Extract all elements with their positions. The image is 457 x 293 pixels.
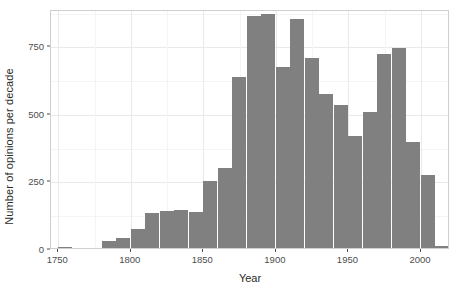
bar-1900 bbox=[276, 67, 290, 248]
bar-1840 bbox=[189, 212, 203, 248]
x-tick-mark-2000 bbox=[420, 249, 421, 252]
bar-1790 bbox=[116, 238, 130, 248]
x-tick-label-1750: 1750 bbox=[47, 254, 68, 265]
bar-1810 bbox=[145, 213, 159, 248]
bar-1820 bbox=[160, 211, 174, 248]
bar-1990 bbox=[406, 142, 420, 248]
x-tick-mark-1900 bbox=[275, 249, 276, 252]
bar-1850 bbox=[203, 181, 217, 248]
bar-2010 bbox=[435, 246, 449, 248]
x-tick-mark-1750 bbox=[57, 249, 58, 252]
y-tick-mark-500 bbox=[47, 113, 50, 114]
x-tick-mark-1800 bbox=[130, 249, 131, 252]
bar-1880 bbox=[247, 16, 261, 248]
bar-1780 bbox=[102, 241, 116, 248]
x-tick-mark-1850 bbox=[202, 249, 203, 252]
bar-1970 bbox=[377, 54, 391, 248]
x-tick-label-1800: 1800 bbox=[119, 254, 140, 265]
y-tick-mark-750 bbox=[47, 46, 50, 47]
x-tick-label-1900: 1900 bbox=[264, 254, 285, 265]
x-tick-mark-1950 bbox=[347, 249, 348, 252]
x-tick-label-1850: 1850 bbox=[192, 254, 213, 265]
bar-1940 bbox=[334, 105, 348, 248]
y-axis-title: Number of opinions per decade bbox=[0, 0, 18, 293]
y-tick-label-250: 250 bbox=[19, 176, 44, 187]
x-axis-title: Year bbox=[50, 272, 450, 284]
x-axis-tick-labels: 175018001850190019502000 bbox=[0, 254, 457, 268]
bars-layer bbox=[51, 11, 448, 248]
bar-1920 bbox=[305, 58, 319, 248]
bar-1750 bbox=[58, 247, 72, 248]
bar-1870 bbox=[232, 77, 246, 248]
plot-panel bbox=[50, 10, 449, 249]
bar-1830 bbox=[174, 210, 188, 248]
bar-1800 bbox=[131, 229, 145, 248]
x-axis-tick-marks bbox=[0, 249, 457, 253]
bar-1860 bbox=[218, 168, 232, 248]
bar-1890 bbox=[261, 14, 275, 248]
histogram-chart: 0250500750 175018001850190019502000 Numb… bbox=[0, 0, 457, 293]
y-tick-label-750: 750 bbox=[19, 41, 44, 52]
bar-1910 bbox=[290, 19, 304, 248]
x-tick-label-1950: 1950 bbox=[337, 254, 358, 265]
bar-1950 bbox=[348, 136, 362, 248]
bar-1930 bbox=[319, 94, 333, 248]
y-tick-label-500: 500 bbox=[19, 108, 44, 119]
bar-1980 bbox=[392, 48, 406, 248]
y-tick-mark-250 bbox=[47, 181, 50, 182]
bar-1960 bbox=[363, 112, 377, 248]
x-tick-label-2000: 2000 bbox=[409, 254, 430, 265]
bar-2000 bbox=[421, 175, 435, 248]
